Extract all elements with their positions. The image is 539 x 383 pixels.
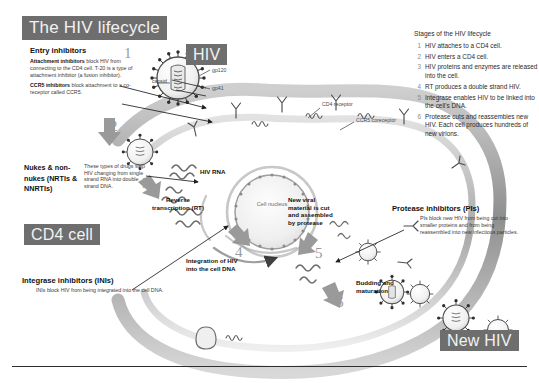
stages-list-item: 2 HIV enters a CD4 cell. — [414, 53, 538, 61]
stages-list-title: Stages of the HIV lifecycle — [414, 30, 538, 39]
stages-list-item: 3 HIV proteins and enzymes are released … — [414, 63, 538, 80]
stage-number: 5 — [414, 94, 421, 111]
footer-note — [236, 370, 536, 382]
stage-number: 3 — [414, 63, 421, 80]
stage-text: Integrase enables HIV to be linked into … — [425, 94, 538, 111]
step-number-1: 1 — [124, 45, 132, 62]
gp41-label: gp41 — [212, 85, 224, 91]
gp120-label: gp120 — [212, 67, 226, 73]
nukes-text: These types of drugs stop HIV changing f… — [84, 163, 146, 195]
integrase-text: INIs block HIV from being integrated int… — [22, 287, 172, 294]
protease-inhibitors-block: Protease inhibitors (PIs) PIs block new … — [392, 204, 520, 235]
integrase-heading: Integrase inhibitors (INIs) — [22, 276, 172, 285]
page-title: The HIV lifecycle — [22, 16, 167, 40]
nukes-heading: Nukes & non-nukes (NRTIs & NNRTIs) — [24, 163, 78, 195]
reverse-transcription-label: Reverse transcription (RT) — [152, 196, 204, 211]
new-hiv-label-badge: New HIV — [440, 330, 519, 351]
cell-nucleus-label: Cell nucleus — [252, 201, 292, 207]
new-viral-material-label: New viral material is cut and assembled … — [288, 196, 340, 226]
stage-text: HIV enters a CD4 cell. — [425, 53, 488, 61]
stage-text: RT produces a double strand HIV. — [425, 83, 521, 91]
stage-text: Protease cuts and reassembles new HIV. E… — [425, 113, 538, 138]
protease-text: PIs block new HIV from being cut into sm… — [392, 215, 520, 235]
ccr5-inhibitors-text: CCR5 inhibitors block attachment to a co… — [30, 82, 142, 95]
hiv-label-badge: HIV — [186, 44, 227, 65]
attachment-inhibitors-bold: Attachment inhibitors — [30, 58, 85, 64]
step-number-3: 3 — [142, 175, 150, 192]
step-number-2: 2 — [110, 118, 118, 135]
step-number-6: 6 — [336, 294, 344, 311]
nukes-block: Nukes & non-nukes (NRTIs & NNRTIs) These… — [24, 163, 149, 195]
protease-heading: Protease inhibitors (PIs) — [392, 204, 520, 213]
ccr5-inhibitors-bold: CCR5 inhibitors — [30, 82, 70, 88]
stages-list-item: 5 Integrase enables HIV to be linked int… — [414, 94, 538, 111]
hiv-lifecycle-infographic: The HIV lifecycle HIV CD4 cell New HIV E… — [0, 0, 539, 383]
stages-list: Stages of the HIV lifecycle 1 HIV attach… — [414, 30, 538, 141]
integration-label: Integration of HIV into the cell DNA — [186, 257, 242, 272]
stage-number: 2 — [414, 53, 421, 61]
stage-number: 1 — [414, 42, 421, 50]
stages-list-item: 1 HIV attaches to a CD4 cell. — [414, 42, 538, 50]
ccr5-coreceptor-label: CCR5 coreceptor — [356, 117, 396, 123]
stage-number: 4 — [414, 83, 421, 91]
stages-list-item: 4 RT produces a double strand HIV. — [414, 83, 538, 91]
integrase-inhibitors-block: Integrase inhibitors (INIs) INIs block H… — [22, 276, 172, 294]
cd4-cell-label-badge: CD4 cell — [24, 224, 100, 245]
stage-text: HIV proteins and enzymes are released in… — [425, 63, 538, 80]
stage-text: HIV attaches to a CD4 cell. — [425, 42, 502, 50]
stage-number: 6 — [414, 113, 421, 138]
cd4-receptor-label: CD4 receptor — [322, 101, 353, 107]
budding-maturation-label: Budding and maturation — [356, 279, 410, 294]
stages-list-item: 6 Protease cuts and reassembles new HIV.… — [414, 113, 538, 138]
footer-divider — [12, 366, 527, 367]
hiv-rna-label: HIV RNA — [200, 168, 225, 176]
capsid-label: capsid — [152, 78, 167, 84]
step-number-4: 4 — [235, 244, 243, 261]
step-number-5: 5 — [315, 245, 323, 262]
